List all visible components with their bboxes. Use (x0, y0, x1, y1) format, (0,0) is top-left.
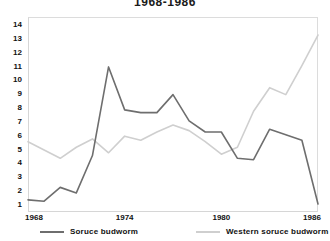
legend-label: Soruce budworm (70, 227, 138, 236)
x-axis-tick-label: 1986 (303, 213, 321, 222)
x-axis: 1968197419801986 (28, 213, 318, 227)
y-axis-tick-label: 8 (18, 103, 22, 112)
x-axis-tick-label: 1968 (25, 213, 43, 222)
y-axis-tick-label: 6 (18, 130, 22, 139)
line-chart: 1968-1986 1413121110987654321 1968197419… (0, 0, 330, 241)
y-axis-tick-label: 11 (14, 61, 22, 70)
y-axis-tick-label: 7 (18, 116, 22, 125)
y-axis-tick-label: 12 (13, 47, 22, 56)
y-axis-tick-label: 14 (13, 20, 22, 29)
series-layer (28, 17, 318, 212)
y-axis: 1413121110987654321 (0, 10, 26, 218)
x-axis-tick-label: 1980 (212, 213, 230, 222)
chart-legend: Soruce budworm Western soruce budworm (0, 227, 330, 241)
legend-item-western-soruce-budworm[interactable]: Western soruce budworm (196, 227, 329, 236)
x-axis-tick-label: 1974 (116, 213, 134, 222)
chart-title: 1968-1986 (0, 0, 330, 9)
y-axis-tick-label: 9 (18, 89, 22, 98)
y-axis-tick-label: 10 (13, 75, 22, 84)
y-axis-tick-label: 5 (18, 144, 22, 153)
y-axis-tick-label: 13 (13, 33, 22, 42)
legend-swatch-icon (40, 231, 64, 233)
y-axis-tick-label: 1 (18, 200, 22, 209)
y-axis-tick-label: 3 (18, 172, 22, 181)
series-line (28, 67, 318, 204)
legend-item-soruce-budworm[interactable]: Soruce budworm (40, 227, 138, 236)
y-axis-tick-label: 4 (18, 158, 22, 167)
series-line (28, 35, 318, 158)
y-axis-tick-label: 2 (18, 186, 22, 195)
legend-swatch-icon (196, 231, 220, 233)
legend-label: Western soruce budworm (226, 227, 329, 236)
